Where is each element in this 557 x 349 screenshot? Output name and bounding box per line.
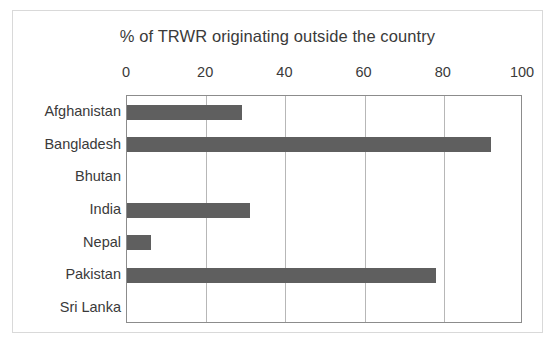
chart-card: % of TRWR originating outside the countr… [12, 10, 543, 333]
y-axis-label-india: India [90, 201, 121, 217]
gridline-60 [365, 96, 366, 322]
x-axis-tick-labels: 020406080100 [13, 64, 542, 84]
bar-india[interactable] [127, 203, 250, 218]
y-axis-category-labels: AfghanistanBangladeshBhutanIndiaNepalPak… [13, 95, 121, 323]
x-axis-tick-0: 0 [122, 64, 130, 80]
x-axis-tick-80: 80 [435, 64, 451, 80]
y-axis-label-afghanistan: Afghanistan [44, 103, 121, 119]
y-axis-label-pakistan: Pakistan [65, 266, 121, 282]
gridline-80 [444, 96, 445, 322]
bar-pakistan[interactable] [127, 268, 436, 283]
x-axis-tick-100: 100 [510, 64, 534, 80]
y-axis-label-nepal: Nepal [83, 234, 121, 250]
gridline-40 [285, 96, 286, 322]
y-axis-label-bangladesh: Bangladesh [44, 136, 121, 152]
plot-area [126, 95, 522, 323]
bar-afghanistan[interactable] [127, 105, 242, 120]
x-axis-tick-40: 40 [276, 64, 292, 80]
x-axis-tick-20: 20 [197, 64, 213, 80]
y-axis-label-sri-lanka: Sri Lanka [60, 299, 121, 315]
bar-nepal[interactable] [127, 235, 151, 250]
bar-bangladesh[interactable] [127, 137, 491, 152]
x-axis-tick-60: 60 [356, 64, 372, 80]
chart-title: % of TRWR originating outside the countr… [13, 27, 542, 46]
y-axis-label-bhutan: Bhutan [75, 168, 121, 184]
